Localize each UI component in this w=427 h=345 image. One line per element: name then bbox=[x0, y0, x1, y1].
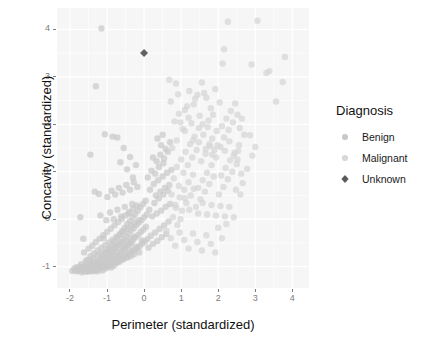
data-point bbox=[204, 211, 210, 217]
data-point bbox=[134, 184, 140, 190]
data-point bbox=[146, 206, 152, 212]
data-point bbox=[182, 128, 188, 134]
x-tick-mark bbox=[218, 289, 219, 292]
data-point bbox=[80, 235, 86, 241]
data-point bbox=[182, 195, 188, 201]
legend-item-malignant[interactable]: Malignant bbox=[336, 148, 426, 168]
data-point bbox=[181, 237, 187, 243]
data-point bbox=[219, 60, 225, 66]
x-tick-label: -2 bbox=[58, 293, 82, 303]
legend-title: Diagnosis bbox=[336, 103, 426, 118]
data-point bbox=[171, 118, 177, 124]
data-point bbox=[217, 203, 223, 209]
data-point bbox=[118, 213, 124, 219]
data-point bbox=[198, 158, 204, 164]
data-point bbox=[226, 138, 232, 144]
data-point bbox=[167, 139, 173, 145]
data-point bbox=[233, 187, 239, 193]
data-point bbox=[219, 235, 225, 241]
data-point bbox=[229, 169, 235, 175]
data-point bbox=[127, 154, 133, 160]
data-point bbox=[181, 187, 187, 193]
data-point bbox=[249, 152, 255, 158]
data-point bbox=[129, 201, 135, 207]
data-point bbox=[211, 173, 217, 179]
data-point bbox=[218, 172, 224, 178]
data-point bbox=[114, 134, 120, 140]
data-point bbox=[174, 222, 180, 228]
x-tick-mark bbox=[144, 289, 145, 292]
plot-canvas bbox=[57, 8, 309, 288]
x-tick-label: -1 bbox=[95, 293, 119, 303]
data-point bbox=[171, 175, 177, 181]
data-point bbox=[125, 210, 131, 216]
data-point bbox=[230, 119, 236, 125]
data-point bbox=[194, 92, 200, 98]
data-point bbox=[231, 152, 237, 158]
data-point bbox=[176, 229, 182, 235]
data-point bbox=[107, 209, 113, 215]
data-point bbox=[210, 112, 216, 118]
data-point bbox=[189, 154, 195, 160]
data-point bbox=[194, 239, 200, 245]
data-point bbox=[145, 174, 151, 180]
data-point bbox=[213, 212, 219, 218]
data-point bbox=[216, 191, 222, 197]
data-point bbox=[168, 98, 174, 104]
data-point bbox=[119, 189, 125, 195]
x-tick-mark bbox=[107, 289, 108, 292]
data-point bbox=[244, 166, 250, 172]
plot-panel bbox=[57, 8, 309, 288]
data-point bbox=[200, 132, 206, 138]
legend-key-circle-icon bbox=[336, 128, 354, 146]
data-point bbox=[104, 194, 110, 200]
legend-item-unknown[interactable]: Unknown bbox=[336, 169, 426, 189]
data-point bbox=[254, 18, 260, 24]
legend-label-malignant: Malignant bbox=[362, 152, 408, 164]
series-unknown bbox=[140, 49, 148, 57]
data-point bbox=[111, 216, 117, 222]
x-tick-mark bbox=[69, 289, 70, 292]
legend-item-benign[interactable]: Benign bbox=[336, 127, 426, 147]
data-point bbox=[222, 148, 228, 154]
data-point bbox=[195, 210, 201, 216]
data-point bbox=[114, 206, 120, 212]
data-point bbox=[203, 94, 209, 100]
data-point bbox=[174, 164, 180, 170]
data-point bbox=[133, 162, 139, 168]
x-tick-label: 2 bbox=[206, 293, 230, 303]
x-axis-title: Perimeter (standardized) bbox=[57, 317, 309, 332]
data-point bbox=[100, 235, 106, 241]
data-point bbox=[188, 192, 194, 198]
x-tick-mark bbox=[292, 289, 293, 292]
data-point bbox=[168, 191, 174, 197]
x-tick-mark bbox=[181, 289, 182, 292]
data-point bbox=[182, 107, 188, 113]
data-point bbox=[102, 131, 108, 137]
data-point bbox=[139, 237, 145, 243]
data-point bbox=[199, 247, 205, 253]
data-point bbox=[209, 135, 215, 141]
legend-key-diamond-icon bbox=[336, 170, 354, 188]
data-point bbox=[236, 142, 242, 148]
data-point bbox=[206, 141, 212, 147]
data-point bbox=[152, 170, 158, 176]
data-point bbox=[163, 227, 169, 233]
data-point bbox=[168, 235, 174, 241]
data-point bbox=[206, 181, 212, 187]
data-point bbox=[178, 156, 184, 162]
data-point bbox=[147, 187, 153, 193]
data-point bbox=[241, 132, 247, 138]
data-point bbox=[185, 245, 191, 251]
data-point bbox=[196, 113, 202, 119]
legend-key-circle-icon bbox=[336, 149, 354, 167]
data-point bbox=[199, 177, 205, 183]
data-point bbox=[161, 155, 167, 161]
data-point bbox=[170, 214, 176, 220]
data-point bbox=[204, 169, 210, 175]
data-point bbox=[142, 197, 148, 203]
data-point bbox=[96, 191, 102, 197]
data-point bbox=[185, 179, 191, 185]
data-point bbox=[247, 132, 253, 138]
data-point bbox=[279, 79, 285, 85]
